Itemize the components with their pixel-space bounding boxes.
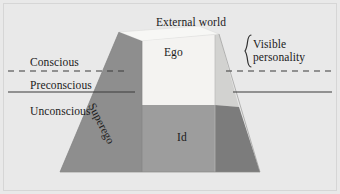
right-lower-face-shape (215, 105, 260, 172)
annotation-visible-personality: Visible personality (253, 38, 305, 63)
level-label-preconscious: Preconscious (30, 79, 92, 92)
diagram-canvas: Conscious Preconscious Unconscious Exter… (4, 4, 336, 190)
region-label-external-world: External world (156, 16, 226, 29)
level-label-unconscious: Unconscious (30, 105, 91, 118)
region-label-ego: Ego (164, 46, 183, 59)
visible-personality-brace (245, 35, 251, 67)
annotation-line-1: Visible (253, 38, 305, 51)
superego-face-shape (60, 32, 142, 172)
region-label-id: Id (177, 131, 187, 144)
annotation-line-2: personality (253, 51, 305, 64)
level-label-conscious: Conscious (30, 56, 79, 69)
diagram-svg (4, 4, 336, 190)
freud-psyche-diagram: Conscious Preconscious Unconscious Exter… (0, 0, 340, 194)
